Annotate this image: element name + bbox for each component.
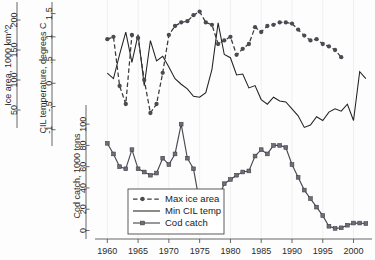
cod-catch-point <box>339 226 343 230</box>
ice-area-point <box>296 27 300 31</box>
ice-area-point <box>204 20 208 24</box>
ice-area-point <box>105 37 109 41</box>
cod-catch-point <box>105 141 109 145</box>
ice-area-point <box>265 24 269 28</box>
ice-area-point <box>321 42 325 46</box>
cod-catch-point <box>222 182 226 186</box>
cod-catch-point <box>302 188 306 192</box>
ice-area-point <box>173 24 177 28</box>
cod-catch-point <box>192 167 196 171</box>
legend-item-label: Cod catch <box>165 217 208 228</box>
cod-catch-point <box>290 163 294 167</box>
legend-square-marker-icon <box>141 221 145 225</box>
ice-area-point <box>222 38 226 42</box>
ice-area-point <box>234 53 238 57</box>
x-axis-tick-label-2: 1970 <box>159 246 179 256</box>
ice-area-point <box>148 111 152 115</box>
ice-area-point <box>124 102 128 106</box>
cod-catch-point <box>229 178 233 182</box>
chart-figure: 50100150200 Ice area, 1000 km^2 -1-.50.5… <box>0 0 375 260</box>
ice-area-point <box>302 33 306 37</box>
ice-area-point <box>284 20 288 24</box>
cod-catch-point <box>327 224 331 228</box>
cod-catch-point <box>247 169 251 173</box>
ice-area-point <box>179 20 183 24</box>
cod-catch-point <box>296 175 300 179</box>
cod-catch-point <box>167 163 171 167</box>
ice-area-point <box>154 102 158 106</box>
ice-area-point <box>142 78 146 82</box>
ice-area-point <box>247 42 251 46</box>
ice-area-point <box>197 9 201 13</box>
cod-catch-point <box>358 221 362 225</box>
ice-area-point <box>308 38 312 42</box>
ice-area-point <box>111 35 115 39</box>
ice-area-point <box>333 48 337 52</box>
chart-legend: Max ice areaMin CIL tempCod catch <box>128 189 224 234</box>
cod-ticks-label-0: 0 <box>78 228 88 233</box>
ice-area-point <box>117 84 121 88</box>
cod-catch-point <box>315 205 319 209</box>
cod-catch-point <box>241 170 245 174</box>
ice-area-point <box>191 13 195 17</box>
ice-area-point <box>253 25 257 29</box>
cod-catch-point <box>253 154 257 158</box>
ice-area-point <box>259 30 263 34</box>
ice-area-point <box>210 23 214 27</box>
cod-catch-point <box>173 152 177 156</box>
x-axis-tick-label-6: 1990 <box>282 246 302 256</box>
ice-area-point <box>130 33 134 37</box>
ice-area-point <box>278 20 282 24</box>
cod-catch-point <box>155 171 159 175</box>
cod-ticks-label-5: 100 <box>78 117 88 132</box>
x-axis-tick-label-8: 2000 <box>344 246 364 256</box>
cod-catch-point <box>278 144 282 148</box>
ice-area-point <box>241 47 245 51</box>
cod-catch-point <box>235 173 239 177</box>
cod-catch-point <box>112 152 116 156</box>
legend-item-label: Max ice area <box>165 193 220 204</box>
ice-area-point <box>228 35 232 39</box>
cod-catch-point <box>259 148 263 152</box>
cod-catch-point <box>130 148 134 152</box>
cod-catch-point <box>345 223 349 227</box>
cod-catch-point <box>179 122 183 126</box>
cod-catch-point <box>161 156 165 160</box>
ice-area-point <box>136 36 140 40</box>
cod-catch-point <box>118 165 122 169</box>
cod-catch-point <box>124 167 128 171</box>
cod-catch-point <box>321 214 325 218</box>
cod-catch-point <box>309 197 313 201</box>
x-axis-tick-label-7: 1995 <box>313 246 333 256</box>
cod-catch-point <box>149 173 153 177</box>
chart-canvas: 50100150200 Ice area, 1000 km^2 -1-.50.5… <box>0 0 375 260</box>
x-axis-tick-label-1: 1965 <box>128 246 148 256</box>
legend-circle-marker-icon <box>140 197 144 201</box>
cil-ticks-label-5: 1.5 <box>44 7 54 20</box>
x-axis-tick-label-4: 1980 <box>220 246 240 256</box>
cod-catch-point <box>272 144 276 148</box>
ice-area-point <box>290 21 294 25</box>
y-axis-cod-catch-label: Cod catch, 1000 tons <box>72 133 82 219</box>
x-axis-tick-label-5: 1985 <box>251 246 271 256</box>
cod-catch-point <box>265 152 269 156</box>
legend-item-label: Min CIL temp <box>165 205 221 216</box>
cod-catch-point <box>364 222 368 226</box>
ice-area-point <box>167 33 171 37</box>
cod-catch-point <box>142 170 146 174</box>
ice-area-point <box>185 19 189 23</box>
y-axis-ice-area-label: Ice area, 1000 km^2 <box>3 24 13 105</box>
ice-area-point <box>216 42 220 46</box>
y-axis-cil-temp-label: CIL temperature, degrees C <box>38 22 48 134</box>
x-axis-tick-label-3: 1975 <box>190 246 210 256</box>
ice-area-point <box>339 55 343 59</box>
ice-area-point <box>327 44 331 48</box>
cod-catch-point <box>333 226 337 230</box>
cod-catch-point <box>185 156 189 160</box>
ice-area-point <box>161 71 165 75</box>
cod-catch-point <box>136 167 140 171</box>
x-axis-tick-label-0: 1960 <box>97 246 117 256</box>
cod-catch-point <box>352 221 356 225</box>
ice-area-point <box>271 23 275 27</box>
ice-area-point <box>314 37 318 41</box>
